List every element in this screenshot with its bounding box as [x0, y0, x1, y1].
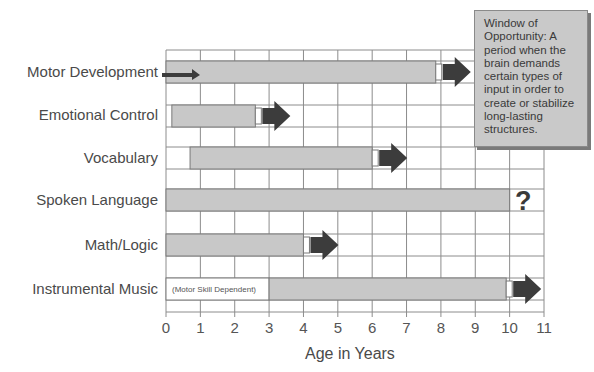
- x-tick-label: 4: [288, 319, 318, 336]
- window-of-opportunity-chart: Motor Development Emotional Control Voca…: [0, 0, 594, 372]
- row-label-motor-development: Motor Development: [27, 63, 158, 81]
- bar-4: [166, 234, 303, 256]
- x-tick-label: 10: [495, 319, 525, 336]
- x-tick-label: 0: [151, 319, 181, 336]
- callout-text-line: period when the: [484, 44, 583, 57]
- callout-text-line: create or stabilize: [484, 97, 583, 110]
- spoken-language-question-mark: ?: [515, 186, 532, 217]
- row-label-math-logic: Math/Logic: [85, 236, 158, 254]
- bar-2: [190, 147, 372, 169]
- x-axis-label: Age in Years: [305, 345, 395, 363]
- x-tick-label: 3: [254, 319, 284, 336]
- bar-end-cap: [372, 150, 378, 166]
- definition-callout-box: Window ofOpportunity: Aperiod when thebr…: [474, 10, 588, 147]
- callout-text-line: Opportunity: A: [484, 30, 583, 43]
- bar-end-cap: [506, 281, 512, 297]
- callout-text-line: long-lasting: [484, 110, 583, 123]
- callout-text-line: certain types of: [484, 70, 583, 83]
- callout-text-line: brain demands: [484, 57, 583, 70]
- x-tick-label: 6: [357, 319, 387, 336]
- x-tick-label: 8: [426, 319, 456, 336]
- callout-text-line: input in order to: [484, 83, 583, 96]
- bar-end-cap: [303, 237, 309, 253]
- bar-end-cap: [255, 108, 261, 124]
- row-label-vocabulary: Vocabulary: [84, 149, 158, 167]
- bar-0: [166, 61, 436, 83]
- callout-text-line: Window of: [484, 17, 583, 30]
- row-label-emotional-control: Emotional Control: [39, 106, 158, 124]
- row-label-instrumental-music: Instrumental Music: [32, 280, 158, 298]
- bar-5: [269, 278, 506, 300]
- bar-3: [166, 189, 510, 211]
- x-tick-label: 1: [185, 319, 215, 336]
- x-tick-label: 11: [529, 319, 559, 336]
- x-tick-label: 5: [323, 319, 353, 336]
- instrumental-note: (Motor Skill Dependent): [172, 285, 256, 294]
- x-tick-label: 7: [392, 319, 422, 336]
- callout-text-line: structures.: [484, 123, 583, 136]
- bar-1: [172, 105, 256, 127]
- row-label-spoken-language: Spoken Language: [36, 191, 158, 209]
- bar-end-cap: [436, 64, 442, 80]
- x-tick-label: 9: [460, 319, 490, 336]
- x-tick-label: 2: [220, 319, 250, 336]
